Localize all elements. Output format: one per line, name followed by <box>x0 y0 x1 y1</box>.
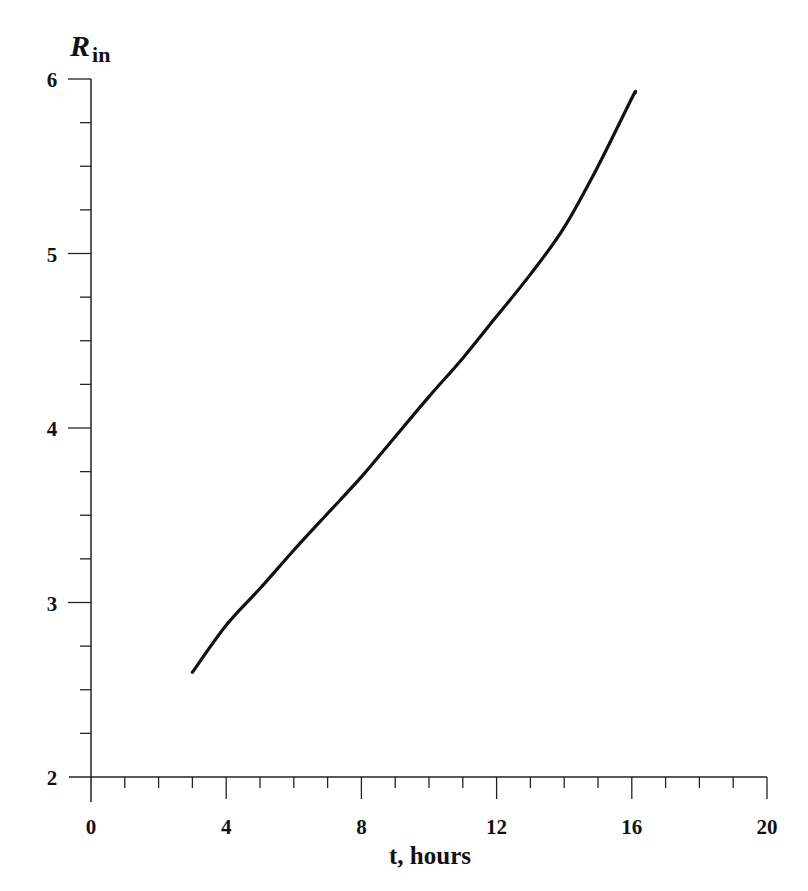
y-tick-label: 4 <box>47 417 58 441</box>
chart: 048121620 23456 t, hours Rin <box>0 0 808 891</box>
axes <box>69 79 767 802</box>
x-tick-label: 16 <box>621 815 642 839</box>
x-tick-label: 4 <box>221 815 232 839</box>
x-tick-label: 8 <box>356 815 367 839</box>
y-axis-ticks: 23456 <box>47 68 91 790</box>
x-tick-label: 12 <box>486 815 507 839</box>
y-axis-title: Rin <box>69 29 110 67</box>
series-layer <box>192 91 635 672</box>
y-tick-label: 3 <box>47 592 58 616</box>
y-axis-title-subscript: in <box>92 42 110 67</box>
y-axis-title-main: R <box>69 29 90 62</box>
x-axis-title: t, hours <box>389 842 471 869</box>
x-tick-label: 0 <box>86 815 97 839</box>
x-tick-label: 20 <box>757 815 778 839</box>
data-line-r-in <box>192 91 635 672</box>
y-tick-label: 5 <box>47 243 58 267</box>
y-tick-label: 6 <box>47 68 58 92</box>
chart-canvas: 048121620 23456 t, hours Rin <box>0 0 808 891</box>
x-axis-ticks: 048121620 <box>86 777 778 839</box>
y-tick-label: 2 <box>47 766 58 790</box>
